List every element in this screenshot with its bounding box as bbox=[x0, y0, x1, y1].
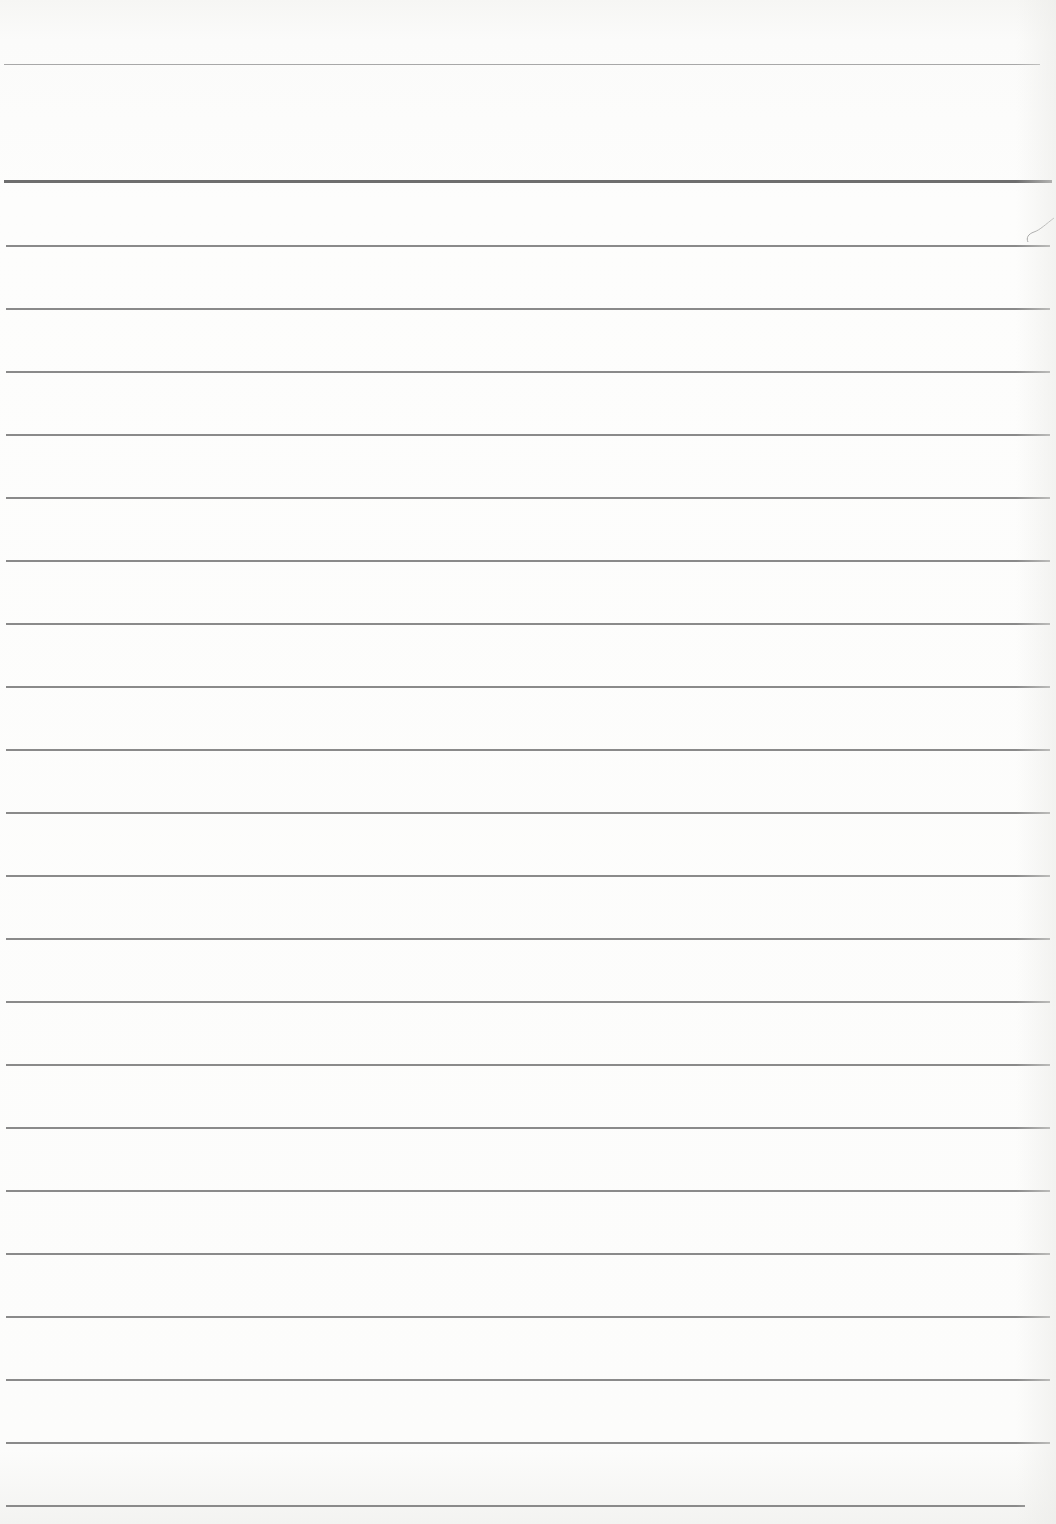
page-corner-curl-icon bbox=[1012, 214, 1056, 244]
ruled-line bbox=[6, 875, 1050, 877]
ruled-line bbox=[6, 560, 1050, 562]
top-margin-rule bbox=[4, 64, 1040, 65]
ruled-line bbox=[6, 1505, 1025, 1507]
ruled-line bbox=[6, 749, 1050, 751]
ruled-line bbox=[6, 1190, 1050, 1192]
ruled-line bbox=[6, 308, 1050, 310]
ruled-paper-page bbox=[0, 0, 1056, 1524]
ruled-line bbox=[6, 1127, 1050, 1129]
header-rule bbox=[4, 180, 1052, 183]
ruled-line bbox=[6, 497, 1050, 499]
ruled-line bbox=[6, 938, 1050, 940]
ruled-line bbox=[6, 1316, 1050, 1318]
ruled-line bbox=[6, 1001, 1050, 1003]
ruled-line bbox=[6, 686, 1050, 688]
ruled-line bbox=[6, 1253, 1050, 1255]
ruled-line bbox=[6, 371, 1050, 373]
ruled-line bbox=[6, 1064, 1050, 1066]
ruled-line bbox=[6, 245, 1050, 247]
ruled-line bbox=[6, 1442, 1050, 1444]
ruled-line bbox=[6, 434, 1050, 436]
ruled-line bbox=[6, 1379, 1050, 1381]
ruled-line bbox=[6, 623, 1050, 625]
ruled-line bbox=[6, 812, 1050, 814]
